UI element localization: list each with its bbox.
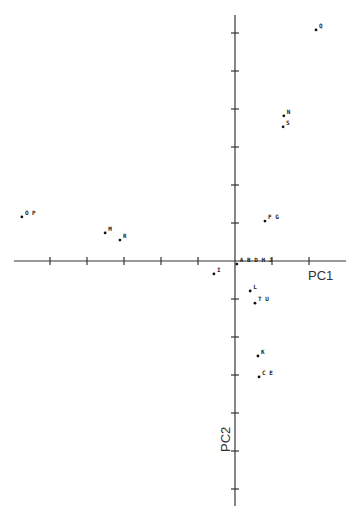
data-point: F G [264,213,280,222]
pca-scatter-plot: O PMRIA B D H JF GLT UKC ENSQ PC1 PC2 [0,0,360,520]
point-label: L [253,283,257,290]
data-points: O PMRIA B D H JF GLT UKC ENSQ [20,22,323,378]
point-label: M [108,225,112,232]
point-marker [20,216,23,219]
data-point: N [282,108,290,117]
point-marker [235,263,238,266]
point-marker [254,302,257,305]
data-point: Q [315,22,323,31]
point-label: K [261,348,265,355]
point-marker [257,355,260,358]
point-marker [213,273,216,276]
point-label: N [287,108,291,115]
data-point: O P [20,209,36,218]
point-label: C E [262,369,273,376]
point-label: T U [258,295,269,302]
point-label: A B D H J [240,256,273,263]
point-marker [104,231,107,234]
data-point: C E [258,369,274,378]
data-point: S [282,119,290,128]
data-point: M [104,225,112,234]
point-label: O P [25,209,36,216]
point-label: F G [268,213,279,220]
data-point: L [249,283,257,292]
axes [14,15,346,506]
data-point: T U [254,295,270,304]
y-axis-label: PC2 [218,427,233,452]
point-marker [119,239,122,242]
point-label: S [286,119,290,126]
point-marker [258,376,261,379]
point-label: Q [319,22,323,29]
point-marker [282,114,285,117]
point-label: I [217,266,221,273]
point-marker [282,125,285,128]
point-marker [315,29,318,32]
point-marker [249,290,252,293]
data-point: R [119,232,127,241]
data-point: I [213,266,221,275]
data-point: K [257,348,265,357]
point-label: R [123,232,127,239]
x-axis-label: PC1 [308,268,333,283]
point-marker [264,220,267,223]
data-point: A B D H J [235,256,272,265]
